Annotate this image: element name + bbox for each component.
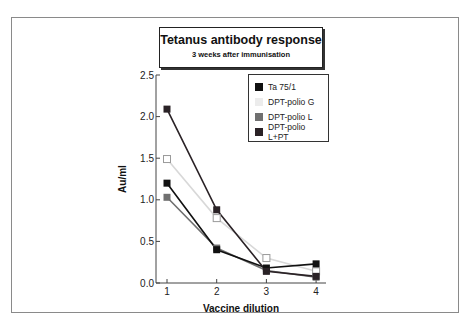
- y-tick-label: 1.0: [140, 194, 154, 205]
- data-point-marker: [164, 106, 171, 113]
- legend-label: DPT-polio L: [268, 112, 312, 122]
- y-tick-label: 0.0: [140, 278, 154, 289]
- legend-item: DPT-polio L+PT: [255, 124, 324, 139]
- x-tick-label: 4: [313, 286, 319, 297]
- y-tick-label: 2.0: [140, 111, 154, 122]
- data-point-marker: [313, 260, 320, 267]
- legend-item: Ta 75/1: [255, 79, 324, 94]
- data-point-marker: [213, 215, 220, 222]
- series-line: [167, 183, 316, 268]
- series-line: [167, 159, 316, 271]
- data-point-marker: [164, 156, 171, 163]
- data-point-marker: [164, 180, 171, 187]
- data-point-marker: [263, 255, 270, 262]
- x-axis-title: Vaccine dilution: [203, 303, 279, 314]
- y-axis-title: Au/ml: [117, 165, 128, 193]
- data-point-marker: [213, 246, 220, 253]
- data-point-marker: [164, 194, 171, 201]
- data-point-marker: [213, 206, 220, 213]
- x-tick-label: 2: [214, 286, 220, 297]
- legend-item: DPT-polio G: [255, 94, 324, 109]
- legend-swatch-icon: [255, 128, 263, 136]
- legend-swatch-icon: [255, 98, 263, 106]
- legend-label: DPT-polio L+PT: [268, 122, 324, 142]
- x-tick-label: 3: [264, 286, 270, 297]
- plot-area: 0.00.51.01.52.02.51234Vaccine dilutionAu…: [0, 0, 470, 326]
- x-tick-label: 1: [164, 286, 170, 297]
- legend-swatch-icon: [255, 113, 263, 121]
- y-tick-label: 0.5: [140, 236, 154, 247]
- y-tick-label: 2.5: [140, 70, 154, 81]
- y-tick-label: 1.5: [140, 153, 154, 164]
- legend-swatch-icon: [255, 83, 263, 91]
- data-point-marker: [263, 268, 270, 275]
- legend-label: DPT-polio G: [268, 97, 314, 107]
- data-point-marker: [313, 273, 320, 280]
- legend-label: Ta 75/1: [268, 82, 296, 92]
- legend: Ta 75/1DPT-polio GDPT-polio LDPT-polio L…: [248, 74, 329, 142]
